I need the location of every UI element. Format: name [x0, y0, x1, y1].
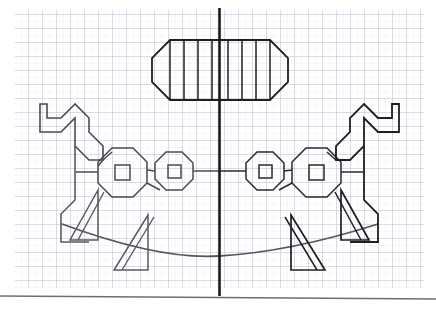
connector-left-inner [147, 170, 155, 171]
drawing-canvas [0, 0, 436, 310]
connector-right-inner [284, 170, 292, 171]
graph-paper-drawing [0, 0, 436, 310]
